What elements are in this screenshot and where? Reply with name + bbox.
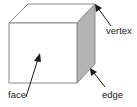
face-label: face — [8, 89, 26, 100]
edge-arrow — [90, 68, 105, 87]
vertex-arrow — [95, 4, 111, 26]
vertex-label: vertex — [106, 25, 132, 36]
cube-front-face — [9, 23, 77, 83]
cube-diagram: vertex face edge — [0, 0, 137, 107]
edge-label: edge — [102, 89, 123, 100]
